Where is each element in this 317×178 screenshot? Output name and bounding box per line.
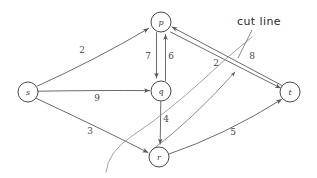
edge-weight-t-p: 8	[249, 51, 255, 61]
node-p[interactable]: p	[151, 12, 171, 32]
edge-weight-r-t: 5	[230, 127, 236, 137]
edge-t-p	[172, 27, 282, 86]
edge-weight-q-r: 4	[163, 114, 169, 124]
nodes-layer: s p q r t	[18, 12, 300, 167]
edge-s-p	[38, 29, 149, 87]
flow-network-diagram: s p q r t 2 9 3 7 6	[0, 0, 317, 178]
edge-weight-s-q: 9	[94, 93, 100, 103]
cut-line-path	[106, 37, 252, 172]
cut-line-curve	[106, 37, 252, 172]
edge-r-t	[169, 100, 282, 155]
node-r[interactable]: r	[149, 147, 169, 167]
edge-weight-r-p: 2	[213, 58, 219, 68]
node-q[interactable]: q	[151, 81, 171, 101]
edge-weight-s-p: 2	[79, 45, 85, 55]
node-t[interactable]: t	[280, 82, 300, 102]
annotations-layer: cut line	[237, 15, 281, 28]
node-s[interactable]: s	[18, 82, 38, 102]
edge-s-q	[38, 90, 149, 91]
node-s-label: s	[26, 88, 30, 97]
edge-weight-p-q: 7	[145, 51, 151, 61]
cut-line-annotation-label: cut line	[237, 15, 281, 28]
node-p-label: p	[158, 18, 163, 27]
edge-weight-q-p: 6	[168, 51, 174, 61]
node-q-label: q	[158, 87, 163, 96]
diagram-canvas: s p q r t 2 9 3 7 6	[0, 0, 317, 178]
edge-p-t	[171, 32, 281, 88]
edge-weight-s-r: 3	[87, 126, 93, 136]
edge-q-r	[160, 102, 161, 145]
